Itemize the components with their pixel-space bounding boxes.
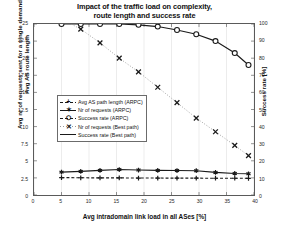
data-point-x bbox=[194, 116, 199, 121]
y-tick-left: 17.5 bbox=[4, 72, 28, 78]
legend-marker-x-icon: ✕ bbox=[65, 123, 72, 131]
data-point-x bbox=[98, 40, 103, 45]
data-point-circle bbox=[213, 39, 218, 44]
y-tick-right: 60 bbox=[259, 89, 283, 95]
x-tick: 0 bbox=[21, 198, 45, 204]
data-point-x bbox=[175, 100, 180, 105]
y-tick-left: 15 bbox=[4, 89, 28, 95]
data-point-plus bbox=[175, 176, 180, 181]
y-tick-left: 22.5 bbox=[4, 37, 28, 43]
x-tick: 40 bbox=[243, 198, 267, 204]
legend-key-none-icon bbox=[60, 131, 76, 139]
data-point-x bbox=[246, 153, 251, 158]
data-point-plus bbox=[59, 175, 64, 180]
y-tick-left: 12.5 bbox=[4, 107, 28, 113]
legend-line-sample bbox=[60, 134, 76, 135]
series-line bbox=[62, 24, 249, 65]
y-tick-right: 50 bbox=[259, 107, 283, 113]
chart-figure: Impact of the traffic load on complexity… bbox=[0, 0, 289, 231]
data-point-circle bbox=[117, 24, 122, 26]
y-tick-left: 20 bbox=[4, 55, 28, 61]
legend-item-label: Success rate (ARPC) bbox=[78, 114, 128, 122]
legend-key-x-icon: ✕ bbox=[60, 123, 76, 131]
data-point-x bbox=[78, 27, 83, 32]
y-tick-left: 5 bbox=[4, 158, 28, 164]
data-point-plus bbox=[232, 176, 237, 181]
data-point-circle bbox=[175, 28, 180, 33]
y-tick-right: 80 bbox=[259, 55, 283, 61]
legend-item[interactable]: Success rate (Best path) bbox=[60, 131, 143, 139]
x-tick: 5 bbox=[49, 198, 73, 204]
legend-key-circle-icon: ⭘ bbox=[60, 114, 76, 122]
legend-item-label: Nr of requests (ARPC) bbox=[78, 106, 131, 114]
legend-marker-star-icon: ✶ bbox=[65, 106, 72, 114]
chart-legend: +Avg AS path length (ARPC)✶Nr of request… bbox=[57, 95, 147, 142]
y-tick-left: 10 bbox=[4, 124, 28, 130]
data-point-circle bbox=[232, 51, 237, 56]
y-tick-right: 10 bbox=[259, 176, 283, 182]
y-tick-right: 40 bbox=[259, 124, 283, 130]
legend-item[interactable]: ⭘Success rate (ARPC) bbox=[60, 114, 143, 122]
data-point-x bbox=[136, 70, 141, 75]
y-tick-left: 25 bbox=[4, 20, 28, 26]
data-point-x bbox=[232, 143, 237, 148]
y-tick-right: 30 bbox=[259, 141, 283, 147]
legend-item[interactable]: ✕Nr of requests (Best path) bbox=[60, 123, 143, 131]
legend-marker-circle-icon: ⭘ bbox=[65, 114, 72, 122]
data-point-plus bbox=[246, 176, 251, 181]
series-line bbox=[62, 178, 249, 179]
data-point-circle bbox=[136, 24, 141, 27]
y-tick-left: 2.5 bbox=[4, 176, 28, 182]
y-tick-right: 90 bbox=[259, 37, 283, 43]
data-point-circle bbox=[194, 32, 199, 37]
y-tick-left: 7.5 bbox=[4, 141, 28, 147]
x-tick: 20 bbox=[132, 198, 156, 204]
data-point-plus bbox=[117, 176, 122, 181]
data-point-circle bbox=[59, 24, 64, 26]
data-point-x bbox=[117, 56, 122, 61]
data-point-plus bbox=[213, 176, 218, 181]
chart-title-line1: Impact of the traffic load on complexity… bbox=[77, 2, 212, 11]
data-point-x bbox=[213, 129, 218, 134]
data-point-plus bbox=[78, 175, 83, 180]
data-point-plus bbox=[136, 176, 141, 181]
chart-title-line2: route length and success rate bbox=[0, 11, 289, 20]
legend-item[interactable]: +Avg AS path length (ARPC) bbox=[60, 98, 143, 106]
legend-item[interactable]: ✶Nr of requests (ARPC) bbox=[60, 106, 143, 114]
x-tick: 10 bbox=[77, 198, 101, 204]
legend-item-label: Success rate (Best path) bbox=[78, 131, 136, 139]
series-2 bbox=[59, 24, 251, 68]
legend-key-star-icon: ✶ bbox=[60, 106, 76, 114]
x-tick: 25 bbox=[160, 198, 184, 204]
y-tick-right: 70 bbox=[259, 72, 283, 78]
data-point-circle bbox=[246, 63, 251, 68]
data-point-plus bbox=[155, 176, 160, 181]
data-point-plus bbox=[194, 176, 199, 181]
y-tick-right: 100 bbox=[259, 20, 283, 26]
legend-item-label: Avg AS path length (ARPC) bbox=[78, 98, 143, 106]
chart-title: Impact of the traffic load on complexity… bbox=[0, 2, 289, 20]
data-point-x bbox=[155, 85, 160, 90]
x-tick: 30 bbox=[188, 198, 212, 204]
x-axis-label: Avg intradomain link load in all ASes [%… bbox=[0, 213, 289, 220]
y-tick-right: 20 bbox=[259, 158, 283, 164]
series-0 bbox=[59, 175, 251, 180]
legend-marker-plus-icon: + bbox=[65, 98, 72, 106]
legend-item-label: Nr of requests (Best path) bbox=[78, 123, 139, 131]
data-point-circle bbox=[155, 24, 160, 29]
data-point-circle bbox=[78, 24, 83, 26]
data-point-plus bbox=[98, 176, 103, 181]
x-tick: 15 bbox=[104, 198, 128, 204]
legend-key-plus-icon: + bbox=[60, 98, 76, 106]
x-tick: 35 bbox=[215, 198, 239, 204]
series-1 bbox=[59, 167, 250, 176]
series-line bbox=[62, 170, 249, 174]
data-point-circle bbox=[98, 24, 103, 26]
